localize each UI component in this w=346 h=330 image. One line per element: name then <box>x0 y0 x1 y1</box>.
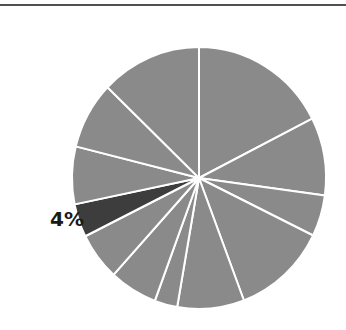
pie-chart <box>0 0 346 330</box>
highlight-slice-label: 4% <box>50 207 84 231</box>
pie-slices <box>72 47 326 309</box>
